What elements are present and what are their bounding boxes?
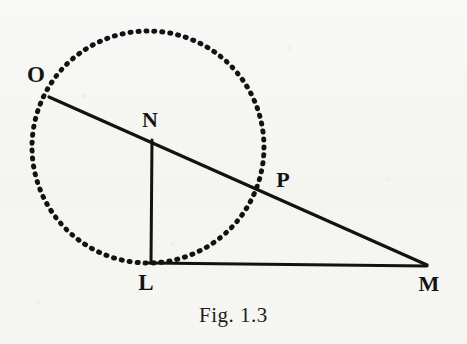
dotted-circle (32, 31, 264, 263)
diagram-geometry (32, 31, 427, 266)
segment-n-to-l (151, 140, 152, 263)
vertex-label-m: M (419, 273, 440, 295)
segment-o-to-m (49, 97, 427, 265)
figure-caption: Fig. 1.3 (0, 303, 467, 328)
geometry-diagram-canvas (0, 0, 467, 344)
vertex-label-o: O (27, 63, 45, 86)
figure-container: O N P L M Fig. 1.3 (0, 0, 467, 344)
vertex-label-n: N (142, 109, 158, 131)
vertex-label-p: P (276, 169, 289, 191)
segment-l-to-m (149, 263, 427, 266)
vertex-label-l: L (138, 271, 153, 294)
